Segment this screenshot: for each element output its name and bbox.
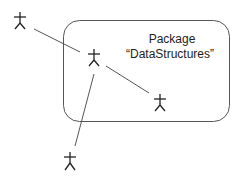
connection-center-to-bottom xyxy=(75,74,94,146)
package-label-line2: “DataStructures” xyxy=(126,47,214,61)
diagram-canvas: Package “DataStructures” xyxy=(0,0,241,178)
actor-icon-inside-bottom-right xyxy=(154,94,166,111)
actor-icon-inside-center xyxy=(88,49,100,66)
package-box xyxy=(64,21,230,122)
diagram-svg: Package “DataStructures” xyxy=(0,0,241,178)
package-label-line1: Package xyxy=(149,32,196,46)
connection-top-to-center xyxy=(34,29,80,52)
connection-center-to-bottom-right xyxy=(106,66,149,93)
actor-icon-outside-top xyxy=(14,12,26,29)
actor-icon-outside-bottom xyxy=(64,152,76,170)
